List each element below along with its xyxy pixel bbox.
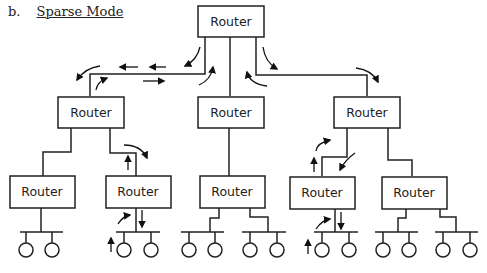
router-bottom-4: Router	[290, 177, 355, 209]
svg-text:Router: Router	[210, 14, 252, 29]
svg-text:Router: Router	[346, 105, 388, 120]
router-mid-center: Router	[198, 97, 264, 128]
router-bottom-2: Router	[106, 176, 171, 208]
router-bottom-5: Router	[382, 177, 447, 209]
svg-text:Router: Router	[210, 105, 252, 120]
router-bottom-3: Router	[200, 176, 265, 208]
router-mid-left: Router	[58, 97, 124, 128]
flow-arrows	[77, 47, 378, 254]
curved-arrow-icon	[199, 67, 213, 85]
curved-arrow-icon	[316, 140, 330, 151]
svg-text:Router: Router	[117, 184, 159, 199]
lan-segments	[19, 208, 478, 257]
curved-arrow-icon	[77, 66, 100, 80]
sparse-mode-diagram: Router Router Router Router Router Route…	[0, 0, 487, 273]
curved-arrow-icon	[247, 72, 267, 86]
curved-arrow-icon	[263, 47, 277, 69]
links-mid	[43, 128, 412, 176]
svg-text:Router: Router	[21, 184, 63, 199]
svg-text:Router: Router	[211, 184, 253, 199]
svg-text:Router: Router	[393, 185, 435, 200]
router-bottom-1: Router	[10, 176, 75, 208]
router-top: Router	[198, 6, 264, 37]
curved-arrow-icon	[316, 219, 330, 229]
curved-arrow-icon	[118, 215, 130, 224]
curved-arrow-icon	[96, 78, 107, 90]
router-mid-right: Router	[334, 97, 400, 128]
svg-text:Router: Router	[70, 105, 112, 120]
curved-arrow-icon	[185, 47, 200, 66]
svg-text:Router: Router	[301, 185, 343, 200]
